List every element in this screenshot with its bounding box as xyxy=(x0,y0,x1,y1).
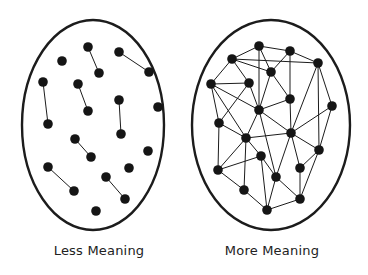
node-dot xyxy=(214,118,224,128)
edge-line xyxy=(318,63,319,150)
node-dot xyxy=(143,146,153,156)
node-dot xyxy=(38,77,48,87)
edge-line xyxy=(267,199,300,210)
edge-line xyxy=(319,106,332,150)
edge-line xyxy=(291,63,318,133)
node-dot xyxy=(69,186,79,196)
boundary-ellipse xyxy=(22,20,164,230)
node-dot xyxy=(256,151,266,161)
edge-line xyxy=(48,167,74,191)
node-dot xyxy=(313,58,323,68)
node-dot xyxy=(285,46,295,56)
less-meaning-diagram xyxy=(22,20,164,230)
node-dot xyxy=(241,133,251,143)
node-dot xyxy=(116,129,126,139)
edge-line xyxy=(259,72,271,110)
node-dot xyxy=(83,106,93,116)
node-dot xyxy=(144,67,154,77)
edge-line xyxy=(218,123,219,170)
node-dot xyxy=(43,162,53,172)
edge-line xyxy=(291,133,300,168)
less-meaning-label: Less Meaning xyxy=(29,243,169,258)
edge-line xyxy=(290,99,291,133)
node-dot xyxy=(286,128,296,138)
edge-line xyxy=(119,100,121,134)
edge-line xyxy=(276,133,291,177)
node-dot xyxy=(43,119,53,129)
node-dot xyxy=(153,102,163,112)
node-dot xyxy=(94,68,104,78)
edge-line xyxy=(259,99,290,110)
edge-line xyxy=(300,150,319,199)
edge-line xyxy=(318,63,332,106)
node-dot xyxy=(244,78,254,88)
node-dot xyxy=(213,165,223,175)
edge-line xyxy=(43,82,48,124)
node-dot xyxy=(91,206,101,216)
node-dot xyxy=(70,134,80,144)
edge-line xyxy=(211,83,249,84)
node-dot xyxy=(254,41,264,51)
edge-line xyxy=(211,84,259,110)
edge-line xyxy=(271,72,290,99)
edge-line xyxy=(244,138,246,190)
node-dot xyxy=(262,205,272,215)
node-dot xyxy=(114,95,124,105)
node-dot xyxy=(101,172,111,182)
node-dot xyxy=(239,185,249,195)
node-dot xyxy=(327,101,337,111)
meaning-network-diagram xyxy=(0,0,368,275)
node-dot xyxy=(266,67,276,77)
node-dot xyxy=(73,79,83,89)
node-dot xyxy=(254,105,264,115)
edge-line xyxy=(218,170,244,190)
edge-line xyxy=(267,177,276,210)
node-dot xyxy=(314,145,324,155)
node-dot xyxy=(57,56,67,66)
node-dot xyxy=(120,194,130,204)
edge-line xyxy=(246,133,291,138)
node-dot xyxy=(271,172,281,182)
more-meaning-label: More Meaning xyxy=(202,243,342,258)
node-dot xyxy=(86,152,96,162)
node-dot xyxy=(295,163,305,173)
node-dot xyxy=(206,79,216,89)
node-dot xyxy=(124,163,134,173)
node-dot xyxy=(285,94,295,104)
node-dot xyxy=(295,194,305,204)
more-meaning-diagram xyxy=(192,20,350,230)
edge-line xyxy=(211,59,232,84)
node-dot xyxy=(83,42,93,52)
edge-line xyxy=(276,177,300,199)
edge-line xyxy=(291,106,332,133)
node-dot xyxy=(114,47,124,57)
edge-line xyxy=(119,52,149,72)
node-dot xyxy=(227,54,237,64)
edge-line xyxy=(232,59,318,63)
edge-line xyxy=(261,156,267,210)
